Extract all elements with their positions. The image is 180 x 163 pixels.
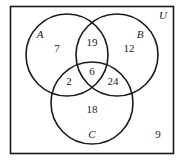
- region-a-b-c: 6: [89, 65, 95, 77]
- region-b-only: 12: [124, 42, 135, 54]
- set-label-c: C: [88, 128, 96, 140]
- region-a-b: 19: [87, 36, 99, 48]
- region-outside: 9: [155, 128, 161, 140]
- set-label-a: A: [36, 28, 44, 40]
- region-a-c: 2: [66, 75, 72, 87]
- universe-label: U: [159, 9, 168, 21]
- set-label-b: B: [137, 28, 144, 40]
- region-b-c: 24: [108, 75, 120, 87]
- region-c-only: 18: [87, 103, 99, 115]
- region-a-only: 7: [54, 42, 60, 54]
- venn-diagram: U A B C 7 19 12 6 2 24 18 9: [0, 0, 180, 163]
